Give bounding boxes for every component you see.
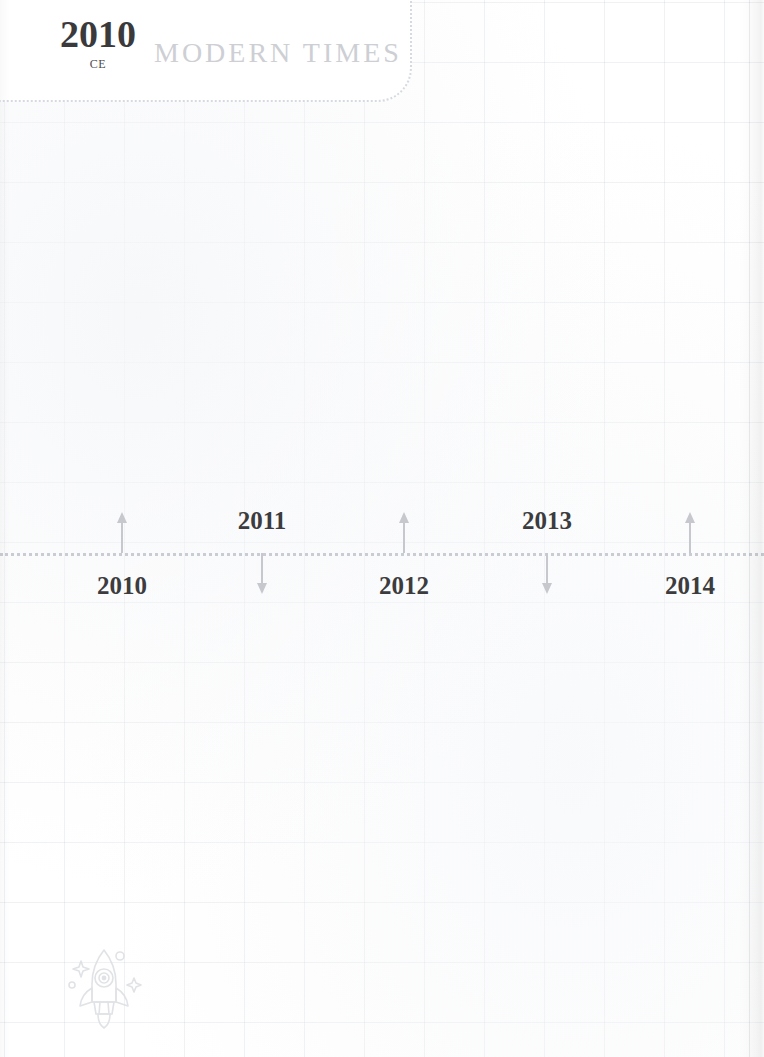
tick-label: 2010 [97, 573, 147, 598]
tick-arrow-head [399, 512, 409, 523]
tick-arrow-head [117, 512, 127, 523]
timeline-page: 2010 CE MODERN TIMES 2010201120122013201… [0, 0, 764, 1057]
rocket-icon [56, 936, 152, 1032]
tick-label: 2014 [665, 573, 715, 598]
timeline-axis [0, 553, 764, 556]
tick-label: 2012 [379, 573, 429, 598]
tick-label: 2011 [238, 508, 287, 533]
rocket-icon-svg [56, 936, 152, 1032]
tick-arrow-head [257, 583, 267, 594]
timeline: 20102011201220132014 [0, 0, 764, 1057]
tick-label: 2013 [522, 508, 572, 533]
tick-arrow-head [685, 512, 695, 523]
tick-arrow-head [542, 583, 552, 594]
